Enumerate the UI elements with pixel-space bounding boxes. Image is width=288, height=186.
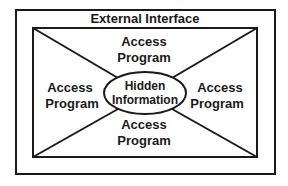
diagonal-top-left [33,28,118,78]
hidden-information-line-1: Hidden [125,79,166,93]
access-program-right-line-2: Program [190,96,243,111]
access-program-bottom-line-2: Program [117,133,170,148]
access-program-bottom-line-1: Access [121,117,167,132]
diagonal-bottom-left [33,109,118,157]
access-program-left-line-2: Program [45,96,98,111]
diagonal-top-right [172,28,257,78]
information-hiding-diagram: External Interface Hidden Information Ac… [0,0,288,186]
diagonal-bottom-right [172,109,257,157]
hidden-information-line-2: Information [112,93,178,107]
access-program-left-line-1: Access [47,80,93,95]
access-program-right-line-1: Access [197,80,243,95]
external-interface-label: External Interface [90,11,199,26]
access-program-top-line-1: Access [121,34,167,49]
access-program-top-line-2: Program [117,50,170,65]
